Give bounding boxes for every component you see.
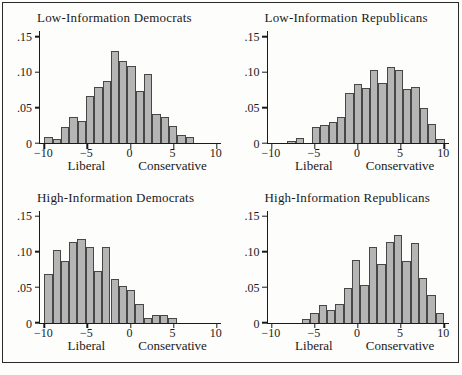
histogram-plot bbox=[39, 211, 221, 324]
x-tick-label: 0 bbox=[127, 327, 133, 339]
histogram-plot bbox=[39, 31, 221, 144]
histogram-bar bbox=[327, 310, 335, 322]
histogram-bar bbox=[403, 89, 411, 143]
y-axis-labels: 0.05.10.15 bbox=[13, 211, 39, 324]
x-tick-label: 10 bbox=[437, 327, 449, 339]
panel-title: High-Information Republicans bbox=[265, 190, 457, 206]
y-tick-mark bbox=[35, 36, 40, 37]
plot-row: 0.05.10.15 bbox=[241, 31, 457, 144]
panel-high-information-democrats: High-Information Democrats 0.05.10.15 −1… bbox=[3, 183, 231, 363]
x-caption-conservative: Conservative bbox=[138, 159, 207, 173]
y-tick-mark bbox=[35, 215, 40, 216]
x-tick-label: 0 bbox=[354, 147, 360, 159]
histogram-bar bbox=[177, 135, 185, 143]
histogram-plot bbox=[267, 211, 449, 324]
histogram-bar bbox=[378, 83, 386, 143]
histogram-bar bbox=[345, 93, 353, 143]
x-caption-liberal: Liberal bbox=[68, 159, 106, 173]
histogram-bar bbox=[420, 108, 428, 143]
histogram-bar bbox=[436, 313, 444, 322]
y-tick-mark bbox=[262, 71, 267, 72]
histogram-bar bbox=[419, 278, 427, 323]
x-tick-label: −10 bbox=[34, 327, 53, 339]
y-tick-label: .05 bbox=[17, 102, 32, 114]
y-tick-label: .05 bbox=[17, 282, 32, 294]
histogram-bar bbox=[337, 117, 345, 143]
histogram-bar bbox=[78, 121, 86, 143]
histogram-bar bbox=[387, 67, 395, 143]
histogram-bar bbox=[144, 318, 152, 322]
histogram-bar bbox=[360, 285, 368, 323]
histogram-bar bbox=[44, 274, 52, 322]
histogram-bar bbox=[310, 313, 318, 323]
histogram-bar bbox=[411, 243, 419, 322]
y-tick-label: .15 bbox=[17, 31, 32, 43]
histogram-bar bbox=[136, 91, 144, 143]
histogram-bar bbox=[428, 124, 436, 143]
x-axis-labels: −10−50510 bbox=[267, 144, 448, 159]
y-tick-label: .15 bbox=[245, 210, 260, 222]
x-caption-liberal: Liberal bbox=[295, 159, 333, 173]
histogram-bar bbox=[354, 84, 362, 143]
histogram-bar bbox=[102, 247, 110, 322]
histogram-bar bbox=[77, 239, 85, 323]
x-tick-label: −10 bbox=[34, 147, 53, 159]
histogram-bar bbox=[69, 242, 77, 322]
histogram-bar bbox=[111, 279, 119, 323]
plot-row: 0.05.10.15 bbox=[241, 211, 457, 324]
y-tick-mark bbox=[35, 71, 40, 72]
histogram-bar bbox=[111, 51, 119, 143]
x-tick-label: 10 bbox=[437, 147, 449, 159]
y-tick-label: .05 bbox=[245, 282, 260, 294]
panel-low-information-republicans: Low-Information Republicans 0.05.10.15 −… bbox=[231, 3, 459, 183]
y-tick-label: .05 bbox=[245, 102, 260, 114]
x-tick-label: −10 bbox=[261, 147, 280, 159]
histogram-bar bbox=[53, 139, 61, 143]
histogram-bar bbox=[119, 286, 127, 322]
y-axis-labels: 0.05.10.15 bbox=[241, 211, 267, 324]
panel-title: Low-Information Democrats bbox=[37, 10, 229, 26]
histogram-bar bbox=[152, 315, 160, 322]
y-tick-mark bbox=[262, 251, 267, 252]
y-tick-label: .10 bbox=[245, 66, 260, 78]
histogram-bar bbox=[402, 261, 410, 323]
histogram-bar bbox=[161, 117, 169, 143]
histogram-bar bbox=[119, 61, 127, 143]
histogram-bar bbox=[135, 304, 143, 322]
y-tick-label: .10 bbox=[17, 66, 32, 78]
histogram-bar bbox=[103, 81, 111, 143]
histogram-bar bbox=[395, 70, 403, 143]
histogram-bar bbox=[94, 271, 102, 322]
x-axis-captions: LiberalConservative bbox=[267, 159, 448, 175]
histogram-bar bbox=[319, 305, 327, 323]
y-tick-mark bbox=[35, 107, 40, 108]
plot-row: 0.05.10.15 bbox=[13, 31, 229, 144]
y-tick-label: .10 bbox=[17, 246, 32, 258]
histogram-bar bbox=[335, 304, 343, 322]
plot-row: 0.05.10.15 bbox=[13, 211, 229, 324]
histogram-bar bbox=[127, 66, 135, 143]
panel-title: Low-Information Republicans bbox=[265, 10, 457, 26]
histogram-bar bbox=[329, 122, 337, 143]
histogram-bar bbox=[94, 87, 102, 143]
histogram-bar bbox=[344, 288, 352, 323]
x-caption-conservative: Conservative bbox=[366, 159, 435, 173]
histogram-bar bbox=[144, 74, 152, 143]
y-tick-label: .15 bbox=[17, 210, 32, 222]
y-tick-mark bbox=[35, 286, 40, 287]
x-axis-labels: −10−50510 bbox=[267, 324, 448, 339]
histogram-bar bbox=[320, 125, 328, 143]
histogram-bar bbox=[296, 138, 304, 143]
x-axis-labels: −10−50510 bbox=[39, 324, 220, 339]
histogram-bar bbox=[86, 247, 94, 323]
histogram-bar bbox=[362, 88, 370, 143]
panel-high-information-republicans: High-Information Republicans 0.05.10.15 … bbox=[231, 183, 459, 363]
x-tick-label: 0 bbox=[127, 147, 133, 159]
histogram-bar bbox=[160, 315, 168, 322]
x-caption-liberal: Liberal bbox=[68, 339, 106, 353]
histogram-bar bbox=[152, 114, 160, 143]
histogram-plot bbox=[267, 31, 449, 144]
x-tick-label: 0 bbox=[354, 327, 360, 339]
histogram-bar bbox=[377, 264, 385, 323]
panel-low-information-democrats: Low-Information Democrats 0.05.10.15 −10… bbox=[3, 3, 231, 183]
